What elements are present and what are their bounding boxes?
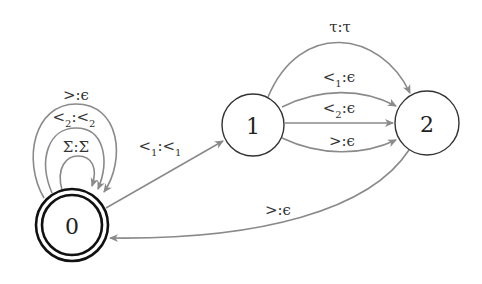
edge-label-gt-eps-1-2: >:ϵ <box>329 132 355 150</box>
node-1: 1 <box>222 94 284 156</box>
node-1-label: 1 <box>246 114 260 139</box>
edge-label-lt1-lt1: <1:<1 <box>139 137 182 158</box>
edge-label-tau: τ:τ <box>329 18 351 36</box>
node-0-label: 0 <box>65 214 79 239</box>
transducer-diagram: 0 1 2 Σ:Σ <2:<2 >:ϵ <1:<1 τ:τ <1:ϵ <2:ϵ … <box>0 0 482 284</box>
edge-2-0 <box>110 150 409 238</box>
node-2: 2 <box>395 91 459 155</box>
node-0: 0 <box>36 189 108 261</box>
edge-label-lt1-eps: <1:ϵ <box>323 68 355 89</box>
node-2-label: 2 <box>420 112 434 137</box>
edge-0-0-sigma <box>60 156 94 190</box>
edge-label-sigma: Σ:Σ <box>63 138 89 156</box>
edge-label-lt2-lt2: <2:<2 <box>53 108 96 129</box>
edge-label-gt-eps-2-0: >:ϵ <box>265 201 291 219</box>
edge-label-lt2-eps: <2:ϵ <box>323 99 355 120</box>
edge-1-2-lt1 <box>282 93 396 107</box>
edge-label-gt-eps-loop: >:ϵ <box>63 86 89 104</box>
